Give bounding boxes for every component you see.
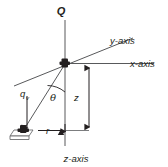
z-distance-label: z (73, 92, 79, 103)
receiver-label-subscript: v (26, 95, 30, 101)
origin-point (60, 59, 71, 68)
r-dimension-arrow (38, 124, 65, 132)
receiver-object (10, 125, 33, 140)
angle-label: θ (50, 92, 56, 103)
z-axis-label: z-axis (63, 153, 89, 164)
diagram-canvas: Q y-axis x-axis z-axis q v θ z r (0, 0, 168, 167)
x-axis-label: x-axis (129, 58, 155, 69)
geometry-figure: Q y-axis x-axis z-axis q v θ z r (0, 0, 168, 167)
source-label: Q (57, 5, 66, 17)
y-axis-label: y-axis (109, 35, 135, 46)
